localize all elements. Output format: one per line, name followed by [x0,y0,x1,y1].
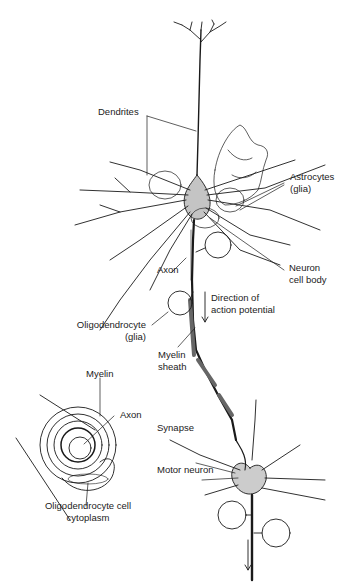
neuron-illustration [0,0,354,586]
label-cytoplasm: cytoplasm [30,512,146,523]
label-myelin: Myelin [86,368,113,379]
label-oligo-cytoplasm: Oligodendrocyte cell [30,500,146,511]
label-direction: Direction of [211,292,259,303]
label-neuron: Neuron [289,262,320,273]
label-sheath: sheath [158,361,187,372]
label-dendrites: Dendrites [98,106,139,117]
label-axon-inset: Axon [120,409,142,420]
label-myelin-sheath: Myelin [158,349,185,360]
neuron-cell-body-drawing [75,160,325,330]
label-oligodendrocyte-glia: (glia) [62,331,146,342]
label-oligodendrocyte: Oligodendrocyte [62,319,146,330]
label-astrocytes-glia: (glia) [290,183,311,194]
astrocytes-drawing [149,125,268,228]
label-action-potential: action potential [211,304,275,315]
label-synapse: Synapse [157,422,194,433]
label-astrocytes: Astrocytes [290,171,334,182]
apical-dendrite [174,20,226,175]
label-cell-body: cell body [289,274,327,285]
label-axon: Axon [157,264,179,275]
axon-drawing [168,220,236,440]
label-motor-neuron: Motor neuron [157,464,214,475]
